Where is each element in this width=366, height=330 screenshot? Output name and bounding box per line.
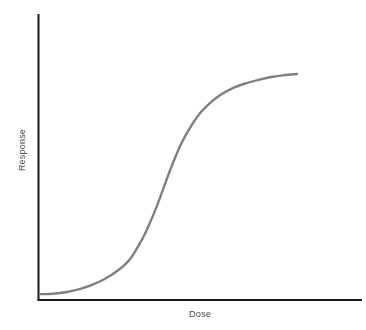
x-axis-label: Dose	[150, 309, 250, 319]
plot-background	[0, 0, 366, 330]
dose-response-chart: Response Dose	[0, 0, 366, 330]
plot-canvas	[0, 0, 366, 330]
y-axis-label: Response	[17, 128, 27, 172]
